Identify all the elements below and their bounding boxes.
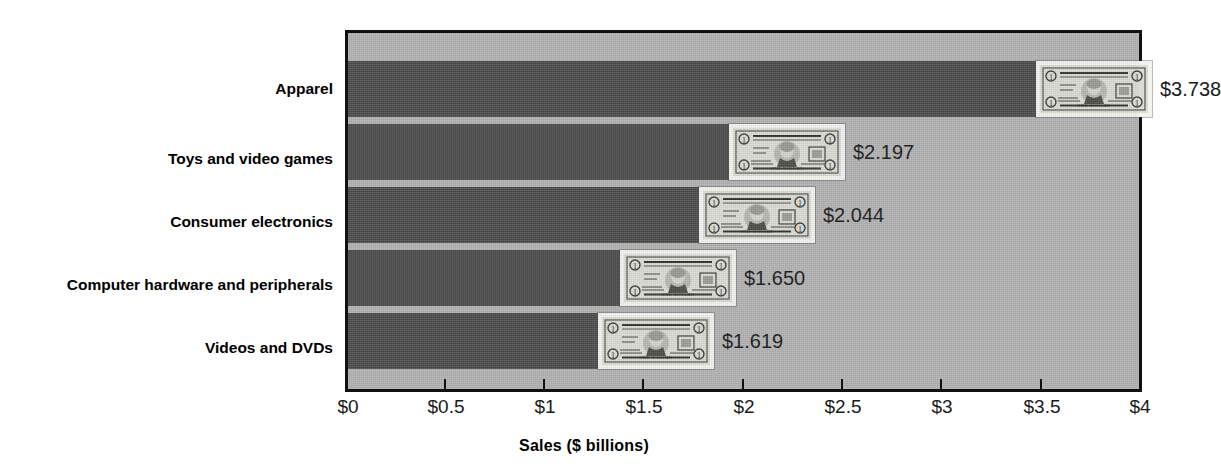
- bars-layer: 1 1 1 1: [348, 33, 1139, 389]
- x-tick-label-5: $2.5: [825, 396, 862, 418]
- value-label-computer-hardware-and-peripherals: $1.650: [744, 267, 805, 290]
- x-tick-label-2: $1: [534, 396, 555, 418]
- svg-text:ONE DOLLAR: ONE DOLLAR: [741, 229, 774, 234]
- svg-text:1: 1: [633, 288, 637, 297]
- svg-text:1: 1: [697, 351, 701, 360]
- x-tick-label-3: $1.5: [626, 396, 663, 418]
- dollar-bill-icon: 1 1 1 1: [729, 124, 845, 180]
- category-label-2: Consumer electronics: [0, 213, 333, 231]
- x-tick-mark: [742, 379, 744, 392]
- x-axis-title: Sales ($ billions): [0, 437, 1168, 455]
- value-label-consumer-electronics: $2.044: [823, 204, 884, 227]
- svg-text:ONE DOLLAR: ONE DOLLAR: [662, 292, 695, 297]
- bar-row: 1 1 1 1: [348, 124, 1139, 180]
- svg-text:1: 1: [742, 162, 746, 171]
- category-label-1: Toys and video games: [0, 150, 333, 168]
- bar-row: 1 1 1 1: [348, 313, 1139, 369]
- category-label-4: Videos and DVDs: [0, 339, 333, 357]
- bar-consumer-electronics: [348, 187, 755, 243]
- svg-text:1: 1: [798, 199, 802, 208]
- svg-text:1: 1: [742, 136, 746, 145]
- value-label-toys-and-video-games: $2.197: [853, 141, 914, 164]
- x-tick-mark: [1040, 379, 1042, 392]
- plot-area: 1 1 1 1: [345, 30, 1142, 392]
- category-label-0: Apparel: [0, 80, 333, 98]
- value-label-apparel: $3.738: [1160, 78, 1221, 101]
- bar-row: 1 1 1 1: [348, 187, 1139, 243]
- bar-apparel: [348, 61, 1092, 117]
- x-tick-mark: [543, 379, 545, 392]
- x-tick-label-4: $2: [733, 396, 754, 418]
- x-tick-mark: [642, 379, 644, 392]
- svg-text:1: 1: [697, 325, 701, 334]
- dollar-bill-icon: 1 1 1 1: [598, 313, 714, 369]
- bar-row: 1 1 1 1: [348, 61, 1139, 117]
- x-tick-label-7: $3.5: [1024, 396, 1061, 418]
- svg-text:1: 1: [1049, 99, 1053, 108]
- x-tick-mark: [841, 379, 843, 392]
- svg-text:ONE DOLLAR: ONE DOLLAR: [640, 355, 673, 360]
- svg-text:1: 1: [611, 325, 615, 334]
- svg-text:1: 1: [633, 262, 637, 271]
- category-label-3: Computer hardware and peripherals: [0, 276, 333, 294]
- dollar-bill-icon: 1 1 1 1: [1036, 61, 1152, 117]
- svg-text:1: 1: [828, 162, 832, 171]
- svg-text:1: 1: [798, 225, 802, 234]
- x-tick-mark: [940, 379, 942, 392]
- x-tick-label-8: $4: [1129, 396, 1150, 418]
- x-tick-mark: [444, 379, 446, 392]
- svg-text:1: 1: [712, 225, 716, 234]
- bar-toys-and-video-games: [348, 124, 785, 180]
- svg-text:ONE DOLLAR: ONE DOLLAR: [771, 166, 804, 171]
- bar-row: 1 1 1 1: [348, 250, 1139, 306]
- x-tick-label-6: $3: [931, 396, 952, 418]
- svg-text:ONE DOLLAR: ONE DOLLAR: [1078, 103, 1111, 108]
- x-tick-label-0: $0: [337, 396, 358, 418]
- x-tick-label-1: $0.5: [428, 396, 465, 418]
- svg-text:1: 1: [712, 199, 716, 208]
- svg-text:1: 1: [1135, 73, 1139, 82]
- svg-text:1: 1: [1049, 73, 1053, 82]
- dollar-bill-icon: 1 1 1 1: [699, 187, 815, 243]
- svg-text:1: 1: [1135, 99, 1139, 108]
- svg-text:1: 1: [719, 288, 723, 297]
- svg-text:1: 1: [611, 351, 615, 360]
- svg-text:1: 1: [719, 262, 723, 271]
- svg-text:1: 1: [828, 136, 832, 145]
- dollar-bill-icon: 1 1 1 1: [620, 250, 736, 306]
- value-label-videos-and-dvds: $1.619: [722, 330, 783, 353]
